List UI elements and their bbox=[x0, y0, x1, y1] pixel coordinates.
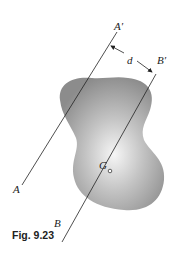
centroid-point bbox=[108, 169, 112, 173]
label-d: d bbox=[127, 54, 133, 66]
label-a: A bbox=[12, 183, 20, 195]
label-b: B bbox=[54, 217, 61, 229]
label-g: G bbox=[99, 159, 107, 171]
label-a-prime: A′ bbox=[113, 20, 124, 32]
area-shape bbox=[60, 77, 164, 210]
distance-arrow-left bbox=[111, 46, 124, 53]
distance-arrow-right bbox=[137, 61, 152, 72]
label-b-prime: B′ bbox=[157, 54, 167, 66]
moment-of-inertia-diagram: A′ B′ d A B G Fig. 9.23 bbox=[0, 0, 181, 255]
figure-caption: Fig. 9.23 bbox=[12, 229, 54, 241]
